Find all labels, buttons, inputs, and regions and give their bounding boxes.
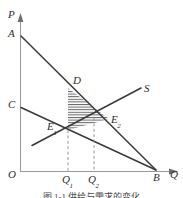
figure-canvas [0,0,183,198]
x-axis-label: Q [170,169,178,180]
point-label-e1-subscript: 1 [53,129,57,137]
origin-label: O [8,169,16,180]
point-label-e2-subscript: 2 [117,122,121,130]
point-label-d: D [73,75,81,86]
y-axis-label: P [8,9,15,20]
tick-label-q2-subscript: 2 [95,182,99,190]
supply-demand-figure: P Q O A C B D S E1 E2 Q1 Q2 图 1-1 供给与需求的… [0,0,183,198]
point-label-e2: E2 [111,114,121,128]
curve-label-s: S [144,83,150,94]
tick-label-q1: Q1 [62,174,73,188]
point-label-a: A [8,28,15,39]
point-label-b: B [153,172,160,183]
demand-curve-a [21,36,156,170]
point-label-c: C [8,99,15,110]
figure-caption: 图 1-1 供给与需求的变化 [0,190,183,198]
point-label-e1: E1 [47,121,57,135]
supply-curve-s [32,88,141,146]
y-axis-arrow [18,13,24,22]
tick-label-q1-subscript: 1 [69,182,73,190]
tick-label-q2: Q2 [88,174,99,188]
